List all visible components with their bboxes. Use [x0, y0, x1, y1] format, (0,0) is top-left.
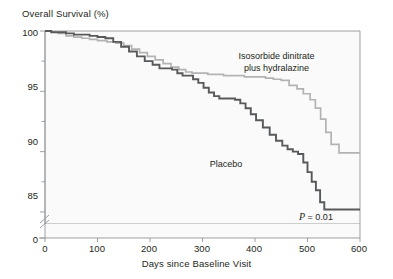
- y-tick-label-100: 100: [8, 27, 38, 38]
- p-value-annotation: P = 0.01: [299, 211, 333, 222]
- treatment-series-label: Isosorbide dinitrate plus hydralazine: [209, 51, 344, 74]
- x-tick-label-300: 300: [182, 243, 222, 254]
- x-tick-label-400: 400: [234, 243, 274, 254]
- treatment-series-label-line2: plus hydralazine: [209, 63, 344, 75]
- y-axis-title: Overall Survival (%): [22, 8, 109, 19]
- x-tick-label-100: 100: [77, 243, 117, 254]
- survival-chart-figure: Overall Survival (%) Days since Baseline…: [0, 0, 393, 279]
- axis-break-region: [45, 224, 360, 238]
- y-tick-label-85: 85: [8, 190, 38, 201]
- y-tick-label-95: 95: [8, 81, 38, 92]
- x-axis-title: Days since Baseline Visit: [0, 258, 393, 269]
- x-tick-label-600: 600: [339, 243, 379, 254]
- placebo-series-label: Placebo: [196, 159, 256, 171]
- x-tick-label-500: 500: [287, 243, 327, 254]
- x-tick-label-0: 0: [25, 243, 65, 254]
- plot-canvas: [0, 0, 393, 279]
- treatment-series-label-line1: Isosorbide dinitrate: [209, 51, 344, 63]
- x-tick-label-200: 200: [129, 243, 169, 254]
- y-tick-label-90: 90: [8, 136, 38, 147]
